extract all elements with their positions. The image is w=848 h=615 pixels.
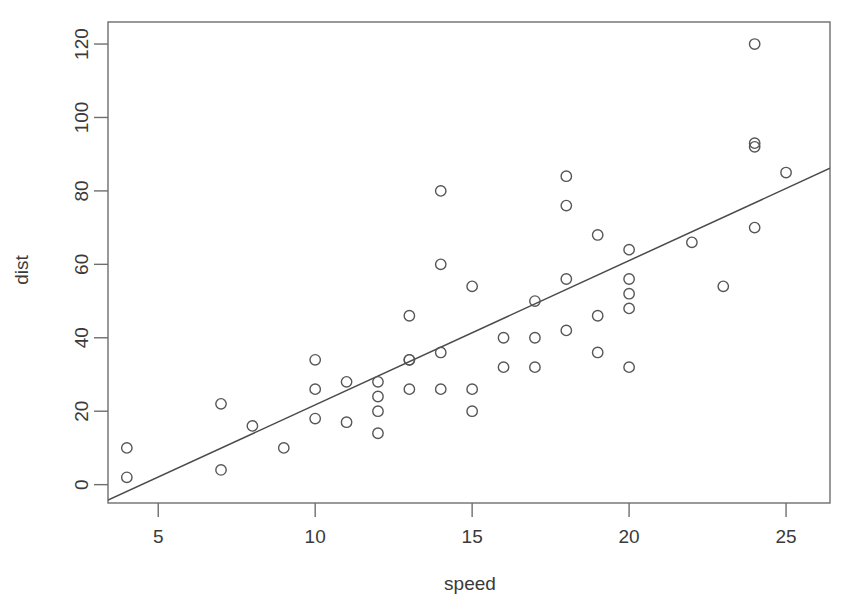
data-point (247, 421, 257, 431)
data-point (310, 413, 320, 423)
data-point (467, 384, 477, 394)
data-point (310, 384, 320, 394)
data-point (373, 428, 383, 438)
y-axis-tick-labels: 020406080100120 (72, 28, 93, 490)
y-tick-label: 0 (72, 479, 93, 490)
data-point (436, 347, 446, 357)
data-point (530, 362, 540, 372)
data-point (436, 186, 446, 196)
data-point (593, 230, 603, 240)
data-point (624, 362, 634, 372)
data-point (436, 259, 446, 269)
data-point (718, 281, 728, 291)
data-point (373, 406, 383, 416)
x-tick-label: 20 (619, 526, 640, 547)
plot-canvas: 510152025 020406080100120 speed dist (0, 0, 848, 615)
data-point (216, 465, 226, 475)
data-point (373, 377, 383, 387)
data-point (467, 406, 477, 416)
regression-line (108, 168, 830, 500)
data-point (216, 399, 226, 409)
data-point (561, 274, 571, 284)
data-point (624, 303, 634, 313)
data-point (310, 355, 320, 365)
data-point (341, 377, 351, 387)
y-axis-ticks (94, 44, 108, 485)
data-point (373, 391, 383, 401)
x-axis-ticks (158, 503, 786, 517)
data-point (687, 237, 697, 247)
data-point (749, 39, 759, 49)
x-tick-label: 15 (462, 526, 483, 547)
data-point (498, 362, 508, 372)
data-point (624, 274, 634, 284)
data-point (404, 384, 414, 394)
data-point (781, 167, 791, 177)
y-axis-title: dist (11, 255, 32, 285)
data-point (122, 443, 132, 453)
data-point (749, 222, 759, 232)
data-point (624, 244, 634, 254)
x-tick-label: 25 (775, 526, 796, 547)
data-point (122, 472, 132, 482)
y-tick-label: 120 (72, 28, 93, 60)
x-tick-label: 10 (305, 526, 326, 547)
data-point (404, 311, 414, 321)
y-tick-label: 20 (72, 401, 93, 422)
data-points (122, 39, 792, 483)
data-point (341, 417, 351, 427)
x-tick-label: 5 (153, 526, 164, 547)
data-point (561, 171, 571, 181)
plot-frame (108, 22, 830, 503)
data-point (467, 281, 477, 291)
data-point (436, 384, 446, 394)
data-point (530, 333, 540, 343)
data-point (593, 347, 603, 357)
data-point (624, 289, 634, 299)
data-point (593, 311, 603, 321)
x-axis-tick-labels: 510152025 (153, 526, 797, 547)
regression-line-segment (108, 168, 830, 500)
data-point (561, 325, 571, 335)
x-axis-title: speed (444, 573, 496, 594)
data-point (561, 200, 571, 210)
y-tick-label: 100 (72, 102, 93, 134)
y-tick-label: 60 (72, 254, 93, 275)
data-point (279, 443, 289, 453)
data-point (498, 333, 508, 343)
scatter-plot-figure: 510152025 020406080100120 speed dist (0, 0, 848, 615)
y-tick-label: 80 (72, 180, 93, 201)
y-tick-label: 40 (72, 327, 93, 348)
